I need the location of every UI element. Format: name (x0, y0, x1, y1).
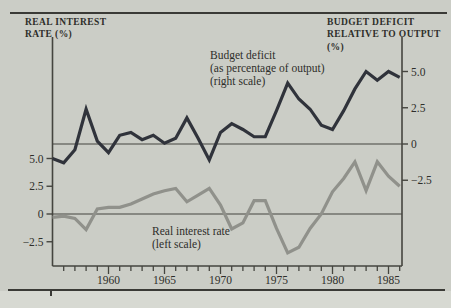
page-margin-strip (0, 291, 451, 308)
right-axis-tick-label: 0 (411, 138, 417, 150)
x-axis-year-label: 1975 (265, 274, 288, 286)
budget-deficit-annotation: Budget deficit (as percentage of output)… (210, 49, 325, 89)
x-axis-year-label: 1960 (97, 274, 120, 286)
left-axis-tick-label: 0 (38, 208, 44, 220)
left-axis-tick-label: 2.5 (29, 180, 44, 192)
right-axis-tick-label: −2.5 (411, 174, 432, 186)
figure-panel: REAL INTEREST RATE (%) BUDGET DEFICIT RE… (0, 0, 451, 308)
plot-area: 5.02.50−2.55.02.50−2.5196019651970197519… (0, 0, 451, 308)
x-axis-year-label: 1970 (209, 274, 232, 286)
footnote-tick-mark (50, 291, 52, 296)
x-axis-year-label: 1985 (377, 274, 400, 286)
left-axis-tick-label: −2.5 (23, 236, 44, 248)
right-axis-tick-label: 5.0 (411, 66, 426, 78)
real-interest-annotation: Real interest rate (left scale) (152, 225, 230, 251)
left-axis-tick-label: 5.0 (29, 153, 44, 165)
x-axis-year-label: 1965 (153, 274, 176, 286)
x-axis-year-label: 1980 (321, 274, 344, 286)
right-axis-tick-label: 2.5 (411, 102, 426, 114)
